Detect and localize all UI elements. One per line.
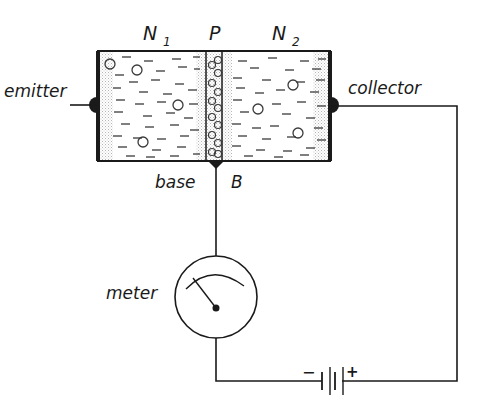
- battery: [322, 367, 343, 395]
- base-label: base: [155, 172, 196, 192]
- meter-icon: [175, 256, 257, 338]
- collector-wire: [331, 106, 457, 381]
- region-label-p: P: [209, 22, 221, 44]
- n1-electrons: [113, 57, 200, 157]
- circuit-wires: [70, 105, 457, 381]
- n1-holes: [105, 59, 183, 147]
- n2-holes: [253, 80, 303, 138]
- svg-text:2: 2: [292, 35, 300, 49]
- n2-electrons: [232, 58, 326, 157]
- transistor-diagram: N 1 P N 2: [0, 0, 482, 409]
- battery-minus: −: [302, 363, 315, 382]
- svg-text:P: P: [209, 22, 221, 44]
- region-label-n1: N 1: [143, 22, 171, 49]
- svg-text:1: 1: [163, 35, 171, 49]
- base-letter-label: B: [231, 172, 243, 192]
- svg-text:N: N: [143, 22, 157, 44]
- battery-plus: +: [346, 363, 359, 381]
- emitter-label: emitter: [4, 81, 68, 101]
- meter-label: meter: [106, 283, 158, 303]
- collector-label: collector: [348, 78, 422, 98]
- collector-contact: [331, 97, 339, 113]
- emitter-stipple: [99, 52, 113, 160]
- region-label-n2: N 2: [272, 22, 300, 49]
- transistor-body: [98, 51, 330, 161]
- svg-text:N: N: [272, 22, 286, 44]
